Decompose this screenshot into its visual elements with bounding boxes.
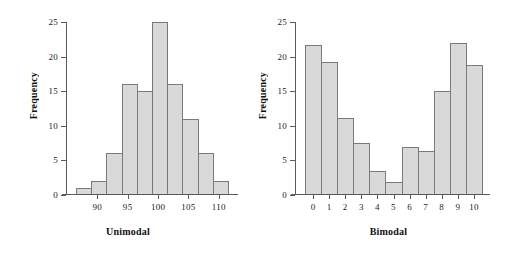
x-tick-label: 10 (469, 202, 479, 212)
bar (337, 118, 354, 196)
bar (450, 43, 467, 195)
x-tick-mark (377, 194, 378, 199)
x-tick-mark (97, 194, 98, 199)
y-tick-mark (61, 195, 66, 196)
x-tick-label: 95 (123, 202, 133, 212)
x-tick-mark (329, 194, 330, 199)
x-tick-label: 9 (455, 202, 460, 212)
y-axis-line-bimodal: 0510152025 (295, 22, 296, 195)
x-tick-mark (158, 194, 159, 199)
bar (182, 119, 198, 195)
x-tick-mark (394, 194, 395, 199)
x-tick-mark (219, 194, 220, 199)
y-axis-line-unimodal: 0510152025 (66, 22, 67, 195)
bar (418, 151, 435, 195)
y-tick-label: 5 (53, 155, 58, 165)
y-tick-label: 5 (282, 155, 287, 165)
x-tick-mark (410, 194, 411, 199)
chart-panel-bimodal: Frequency 0510152025 012345678910 Bimoda… (259, 0, 518, 255)
bar (321, 62, 338, 195)
y-tick-label: 0 (53, 190, 58, 200)
bar (198, 153, 214, 195)
bar (106, 153, 122, 195)
y-tick-mark (290, 57, 295, 58)
x-tick-label: 105 (181, 202, 195, 212)
x-tick-mark (442, 194, 443, 199)
bar (466, 65, 483, 195)
bar (434, 91, 451, 195)
bar (152, 22, 168, 195)
y-tick-label: 10 (277, 121, 287, 131)
histogram-figure: Frequency 0510152025 9095100105110 Unimo… (0, 0, 518, 255)
bar-series-unimodal (76, 22, 228, 195)
plot-area-bimodal (305, 22, 482, 195)
bar (91, 181, 107, 195)
y-tick-mark (290, 91, 295, 92)
bar-series-bimodal (305, 22, 482, 195)
y-tick-mark (61, 22, 66, 23)
chart-panel-unimodal: Frequency 0510152025 9095100105110 Unimo… (0, 0, 259, 255)
x-axis-title-bimodal: Bimodal (259, 226, 518, 237)
bar (402, 147, 419, 195)
y-tick-label: 10 (48, 121, 58, 131)
y-tick-mark (290, 22, 295, 23)
x-tick-label: 6 (407, 202, 412, 212)
y-tick-label: 0 (282, 190, 287, 200)
x-tick-label: 1 (327, 202, 332, 212)
x-tick-label: 100 (151, 202, 165, 212)
y-tick-mark (61, 91, 66, 92)
x-tick-label: 4 (375, 202, 380, 212)
x-tick-mark (458, 194, 459, 199)
y-tick-label: 20 (277, 52, 287, 62)
x-axis-title-unimodal: Unimodal (18, 226, 238, 237)
y-tick-mark (61, 126, 66, 127)
x-tick-label: 8 (439, 202, 444, 212)
y-tick-mark (61, 57, 66, 58)
y-tick-mark (290, 126, 295, 127)
bar (213, 181, 229, 195)
y-tick-mark (61, 160, 66, 161)
bar (167, 84, 183, 195)
bar (137, 91, 153, 195)
x-tick-label: 90 (92, 202, 102, 212)
y-tick-label: 25 (277, 17, 287, 27)
x-axis-line-bimodal: 012345678910 (291, 194, 490, 195)
bar (369, 171, 386, 195)
x-tick-label: 2 (343, 202, 348, 212)
plot-area-unimodal (76, 22, 228, 195)
x-tick-mark (426, 194, 427, 199)
x-tick-mark (474, 194, 475, 199)
x-tick-label: 3 (359, 202, 364, 212)
y-tick-mark (290, 160, 295, 161)
y-tick-label: 20 (48, 52, 58, 62)
x-axis-line-unimodal: 9095100105110 (62, 194, 238, 195)
y-tick-mark (290, 195, 295, 196)
x-tick-mark (188, 194, 189, 199)
x-tick-label: 7 (423, 202, 428, 212)
x-tick-mark (128, 194, 129, 199)
x-tick-label: 110 (212, 202, 226, 212)
bar (353, 143, 370, 195)
x-tick-label: 5 (391, 202, 396, 212)
bar (122, 84, 138, 195)
x-tick-mark (345, 194, 346, 199)
y-tick-label: 25 (48, 17, 58, 27)
x-tick-label: 0 (311, 202, 316, 212)
y-axis-title-unimodal: Frequency (28, 72, 39, 119)
y-tick-label: 15 (48, 86, 58, 96)
bar (305, 45, 322, 195)
y-axis-title-bimodal: Frequency (257, 72, 268, 119)
x-tick-mark (313, 194, 314, 199)
x-tick-mark (361, 194, 362, 199)
y-tick-label: 15 (277, 86, 287, 96)
